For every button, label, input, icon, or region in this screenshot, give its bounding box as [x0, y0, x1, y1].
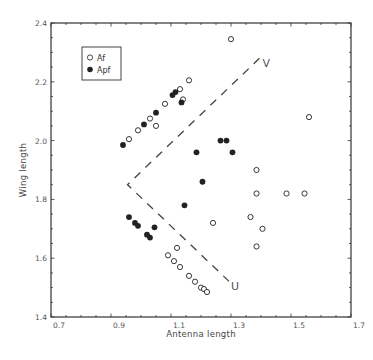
af-data-point	[126, 137, 131, 142]
y-tick-label: 2.4	[35, 19, 47, 28]
v-line-label: V	[263, 57, 271, 70]
u-line-label: U	[231, 280, 239, 293]
legend: Af Apf	[82, 47, 121, 80]
af-data-point	[302, 191, 307, 196]
apf-data-point	[173, 89, 179, 95]
af-data-point	[228, 37, 233, 42]
af-data-point	[254, 244, 259, 249]
apf-data-point	[153, 110, 159, 116]
af-data-point	[135, 128, 140, 133]
af-data-point	[177, 87, 182, 92]
series-af-points	[126, 37, 311, 295]
af-data-point	[147, 116, 152, 121]
y-tick-label: 1.6	[35, 254, 47, 263]
apf-data-point	[126, 214, 132, 220]
apf-data-point	[182, 202, 188, 208]
scatter-chart: 0.70.91.11.31.51.7 1.41.61.82.02.22.4 V …	[0, 0, 373, 360]
af-data-point	[210, 220, 215, 225]
y-tick-label: 1.8	[35, 195, 47, 204]
af-data-point	[192, 279, 197, 284]
filled-circle-icon	[87, 67, 93, 73]
apf-data-point	[230, 149, 236, 155]
af-data-point	[254, 191, 259, 196]
dashed-boundary-line	[128, 58, 260, 283]
y-tick-label: 2.2	[35, 78, 47, 87]
apf-data-point	[152, 224, 158, 230]
series-apf-points	[120, 89, 235, 240]
apf-data-point	[147, 235, 153, 241]
dashed-v-line	[128, 58, 260, 283]
apf-data-point	[200, 179, 206, 185]
y-tick-label: 2.0	[35, 137, 47, 146]
x-tick-label: 0.7	[53, 321, 65, 330]
af-data-point	[186, 78, 191, 83]
x-tick-label: 1.5	[293, 321, 305, 330]
af-data-point	[284, 191, 289, 196]
af-data-point	[153, 123, 158, 128]
apf-data-point	[135, 223, 141, 229]
open-circle-icon	[87, 55, 92, 60]
legend-label-af: Af	[97, 54, 105, 63]
y-tick-labels: 1.41.61.82.02.22.4	[35, 19, 47, 322]
af-data-point	[254, 167, 259, 172]
apf-data-point	[224, 138, 230, 144]
af-data-point	[306, 114, 311, 119]
af-data-point	[186, 273, 191, 278]
af-data-point	[248, 214, 253, 219]
af-data-point	[177, 264, 182, 269]
x-axis-label: Antenna length	[166, 329, 236, 339]
af-data-point	[174, 245, 179, 250]
x-tick-label: 0.9	[113, 321, 125, 330]
apf-data-point	[218, 138, 224, 144]
y-tick-label: 1.4	[35, 313, 47, 322]
y-axis-label: Wing length	[18, 143, 28, 197]
af-data-point	[165, 253, 170, 258]
af-data-point	[260, 226, 265, 231]
legend-box	[82, 47, 121, 80]
apf-data-point	[194, 149, 200, 155]
af-data-point	[204, 289, 209, 294]
apf-data-point	[141, 122, 147, 128]
af-data-point	[171, 259, 176, 264]
x-tick-label: 1.7	[353, 321, 365, 330]
apf-data-point	[179, 99, 185, 105]
af-data-point	[162, 101, 167, 106]
apf-data-point	[120, 142, 126, 148]
legend-label-apf: Apf	[97, 66, 111, 75]
